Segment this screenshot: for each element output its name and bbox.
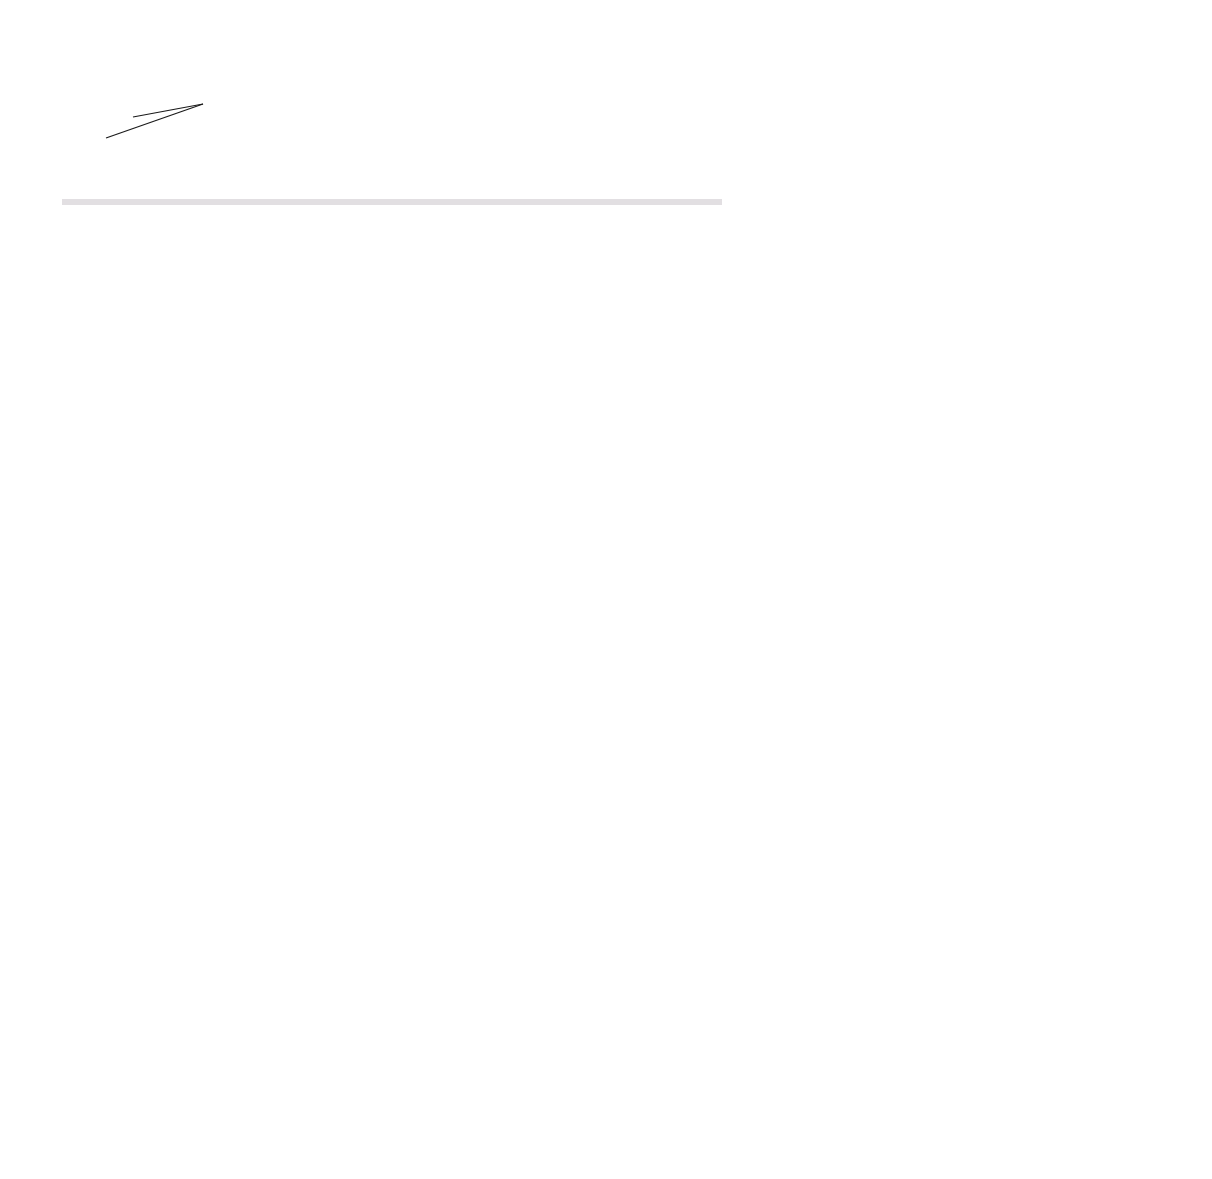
annotation-pointer-line — [106, 104, 203, 138]
scan-artifact-band — [62, 199, 722, 205]
receptive-field-circles — [0, 0, 1212, 320]
annotation-pointer-line — [133, 104, 203, 117]
sine-wave-curves — [0, 0, 1212, 1179]
intensity-profile-chart — [0, 0, 1212, 600]
